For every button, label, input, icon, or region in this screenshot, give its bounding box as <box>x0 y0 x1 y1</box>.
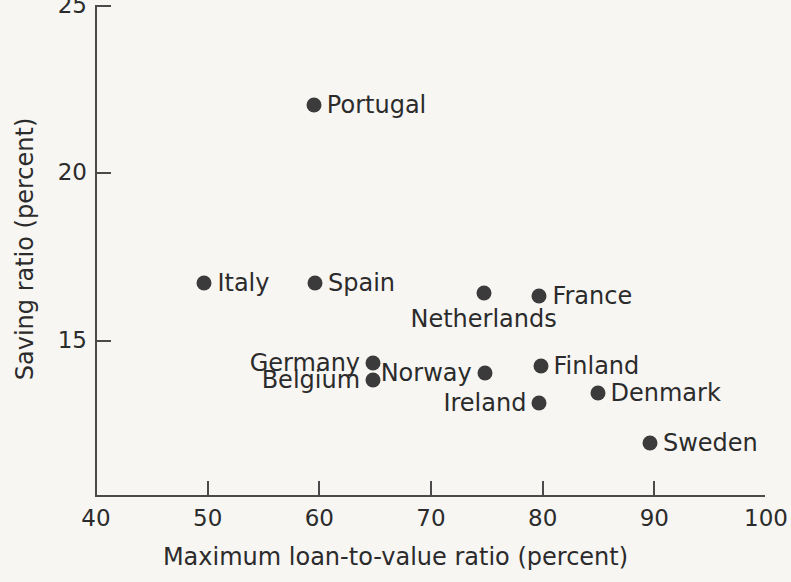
y-axis-line <box>95 5 97 497</box>
x-tick-mark <box>207 481 209 495</box>
y-tick-label: 15 <box>58 328 87 351</box>
data-point-portugal[interactable] <box>306 98 321 113</box>
y-tick-label: 20 <box>58 161 87 184</box>
x-tick-label: 40 <box>81 507 110 530</box>
x-tick-label: 100 <box>744 507 788 530</box>
x-tick-mark <box>542 481 544 495</box>
data-point-norway[interactable] <box>477 366 492 381</box>
x-tick-mark <box>653 481 655 495</box>
data-point-italy[interactable] <box>197 275 212 290</box>
data-point-germany[interactable] <box>366 356 381 371</box>
data-point-ireland[interactable] <box>532 396 547 411</box>
x-tick-80: 80 <box>542 481 544 497</box>
data-point-label-spain: Spain <box>328 271 395 295</box>
data-point-netherlands[interactable] <box>476 285 491 300</box>
data-point-label-norway: Norway <box>381 361 472 385</box>
plot-area: 152025 405060708090100 PortugalItalySpai… <box>95 5 765 497</box>
x-tick-60: 60 <box>318 481 320 497</box>
data-point-label-italy: Italy <box>217 271 269 295</box>
data-point-label-sweden: Sweden <box>663 431 758 455</box>
y-tick-25: 25 <box>95 5 111 7</box>
y-axis-title: Saving ratio (percent) <box>13 0 37 549</box>
data-point-label-ireland: Ireland <box>443 391 526 415</box>
y-tick-20: 20 <box>95 172 111 174</box>
data-point-label-portugal: Portugal <box>327 93 426 117</box>
x-tick-90: 90 <box>653 481 655 497</box>
x-tick-label: 80 <box>528 507 557 530</box>
x-tick-label: 90 <box>640 507 669 530</box>
x-tick-mark <box>430 481 432 495</box>
y-tick-mark <box>97 172 111 174</box>
data-point-finland[interactable] <box>533 359 548 374</box>
data-point-label-denmark: Denmark <box>611 381 721 405</box>
scatter-plot-figure: 152025 405060708090100 PortugalItalySpai… <box>0 0 791 582</box>
x-tick-mark <box>318 481 320 495</box>
x-tick-label: 60 <box>305 507 334 530</box>
x-tick-100: 100 <box>765 481 767 497</box>
data-point-denmark[interactable] <box>590 386 605 401</box>
data-point-france[interactable] <box>532 289 547 304</box>
x-tick-70: 70 <box>430 481 432 497</box>
y-tick-15: 15 <box>95 340 111 342</box>
y-tick-mark <box>97 340 111 342</box>
x-axis-title: Maximum loan-to-value ratio (percent) <box>0 545 791 569</box>
data-point-spain[interactable] <box>307 275 322 290</box>
data-point-belgium[interactable] <box>366 372 381 387</box>
x-tick-40: 40 <box>95 481 97 497</box>
data-point-label-netherlands: Netherlands <box>410 307 556 331</box>
x-tick-label: 70 <box>416 507 445 530</box>
data-point-label-finland: Finland <box>554 354 640 378</box>
data-point-label-belgium: Belgium <box>262 368 360 392</box>
y-tick-label: 25 <box>58 0 87 17</box>
data-point-label-france: France <box>552 284 632 308</box>
x-tick-label: 50 <box>193 507 222 530</box>
y-tick-mark <box>97 5 111 7</box>
x-tick-50: 50 <box>207 481 209 497</box>
data-point-sweden[interactable] <box>642 436 657 451</box>
